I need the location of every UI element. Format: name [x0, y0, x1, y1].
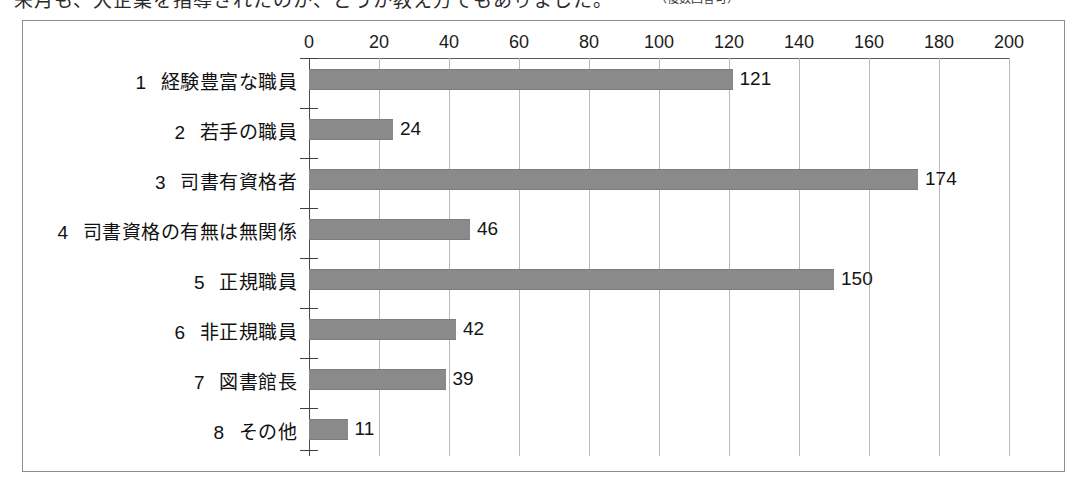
bar-value-label: 11: [355, 418, 375, 440]
category-label: 7図書館長: [194, 367, 297, 394]
category-text: 若手の職員: [200, 122, 298, 143]
bar-value-label: 24: [400, 118, 421, 140]
category-text: 正規職員: [219, 272, 297, 293]
caption-strip: 来月も、大企業を指導されたのか、どうか教え方でもありました。 （複数回答可）: [0, 0, 1090, 14]
category-number: 4: [57, 222, 68, 244]
category-label: 2若手の職員: [174, 117, 297, 144]
category-number: 5: [194, 272, 205, 294]
category-label-column: 1経験豊富な職員2若手の職員3司書有資格者4司書資格の有無は無関係5正規職員6非…: [23, 21, 297, 473]
category-text: 司書資格の有無は無関係: [83, 222, 298, 243]
category-tickmark: [300, 108, 318, 109]
bar: [309, 269, 834, 290]
caption-note: （複数回答可）: [655, 0, 739, 6]
gridline: [729, 58, 730, 456]
bar-value-label: 39: [453, 368, 474, 390]
category-text: 図書館長: [219, 372, 297, 393]
gridline: [659, 58, 660, 456]
category-label: 5正規職員: [194, 267, 297, 294]
bar: [309, 119, 393, 140]
x-tick-label: 160: [854, 32, 884, 53]
gridline: [799, 58, 800, 456]
category-tickmark: [300, 208, 318, 209]
x-tick-label: 200: [994, 32, 1024, 53]
bar: [309, 169, 918, 190]
category-tickmark: [300, 308, 318, 309]
bar: [309, 419, 348, 440]
bar: [309, 369, 446, 390]
x-tick-label: 80: [579, 32, 599, 53]
category-label: 4司書資格の有無は無関係: [57, 217, 297, 244]
category-number: 7: [194, 372, 205, 394]
category-label: 6非正規職員: [174, 317, 297, 344]
category-tickmark: [300, 450, 318, 451]
x-tick-label: 120: [714, 32, 744, 53]
bar-value-label: 174: [925, 168, 957, 190]
category-label: 1経験豊富な職員: [135, 67, 297, 94]
gridline: [939, 58, 940, 456]
category-number: 2: [174, 122, 185, 144]
gridline: [589, 58, 590, 456]
bar-value-label: 150: [841, 268, 873, 290]
category-text: 司書有資格者: [180, 172, 297, 193]
category-text: 非正規職員: [200, 322, 298, 343]
bar: [309, 69, 733, 90]
x-tick-label: 180: [924, 32, 954, 53]
bar-value-label: 42: [463, 318, 484, 340]
x-tick-label: 100: [644, 32, 674, 53]
category-number: 1: [135, 72, 146, 94]
x-tick-label: 140: [784, 32, 814, 53]
category-tickmark: [300, 158, 318, 159]
category-text: 経験豊富な職員: [161, 72, 298, 93]
caption-text: 来月も、大企業を指導されたのか、どうか教え方でもありました。: [14, 0, 613, 12]
gridline: [869, 58, 870, 456]
category-text: その他: [239, 422, 298, 443]
category-tickmark: [300, 58, 318, 59]
category-tickmark: [300, 258, 318, 259]
gridline: [519, 58, 520, 456]
chart-frame: 1経験豊富な職員2若手の職員3司書有資格者4司書資格の有無は無関係5正規職員6非…: [22, 20, 1065, 472]
category-number: 6: [174, 322, 185, 344]
x-tick-label: 20: [369, 32, 389, 53]
bar-value-label: 121: [740, 68, 772, 90]
category-number: 3: [155, 172, 166, 194]
gridline: [1009, 58, 1010, 456]
category-tickmark: [300, 408, 318, 409]
plot-area: 0204060801001201401601802001212417446150…: [309, 21, 1009, 473]
category-label: 8その他: [213, 417, 297, 444]
gridline: [449, 58, 450, 456]
category-number: 8: [213, 422, 224, 444]
x-tick-label: 40: [439, 32, 459, 53]
x-tick-label: 60: [509, 32, 529, 53]
value-axis-line: [309, 58, 310, 456]
bar-value-label: 46: [477, 218, 498, 240]
category-tickmark: [300, 358, 318, 359]
category-label: 3司書有資格者: [155, 167, 297, 194]
gridline: [379, 58, 380, 456]
bar: [309, 319, 456, 340]
bar: [309, 219, 470, 240]
x-tick-label: 0: [304, 32, 314, 53]
